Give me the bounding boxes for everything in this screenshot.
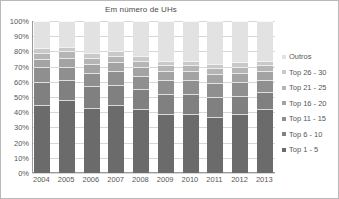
y-tick-label: 40% xyxy=(1,108,29,117)
bar-segment[interactable] xyxy=(133,76,149,90)
legend-item[interactable]: Outros xyxy=(282,49,338,65)
legend-swatch-icon xyxy=(282,148,286,152)
y-tick-label: 90% xyxy=(1,32,29,41)
bar-column[interactable] xyxy=(34,21,50,173)
legend-item-label: Top 26 - 30 xyxy=(289,68,327,77)
y-axis: 0%10%20%30%40%50%60%70%80%90%100% xyxy=(1,21,29,173)
y-tick-label: 80% xyxy=(1,47,29,56)
bar-segment[interactable] xyxy=(183,114,199,173)
y-tick-label: 70% xyxy=(1,62,29,71)
bar-segment[interactable] xyxy=(34,59,50,67)
bar-column[interactable] xyxy=(207,21,223,173)
bar-segment[interactable] xyxy=(108,71,124,85)
bar-segment[interactable] xyxy=(108,85,124,105)
bar-segment[interactable] xyxy=(207,21,223,64)
bar-column[interactable] xyxy=(84,21,100,173)
bar-stack xyxy=(34,21,50,173)
bar-segment[interactable] xyxy=(257,71,273,80)
legend-item-label: Top 21 - 25 xyxy=(289,83,327,92)
x-tick-label: 2012 xyxy=(231,175,247,184)
legend-item[interactable]: Top 1 - 5 xyxy=(282,142,338,158)
legend-item-label: Top 11 - 15 xyxy=(289,114,326,123)
bar-segment[interactable] xyxy=(158,80,174,94)
bar-segment[interactable] xyxy=(34,67,50,82)
bar-segment[interactable] xyxy=(59,100,75,173)
legend-swatch-icon xyxy=(282,101,286,105)
bar-segment[interactable] xyxy=(84,21,100,53)
bar-column[interactable] xyxy=(183,21,199,173)
bar-segment[interactable] xyxy=(232,82,248,96)
legend-item[interactable]: Top 26 - 30 xyxy=(282,65,338,81)
bar-segment[interactable] xyxy=(183,80,199,94)
bar-segment[interactable] xyxy=(34,82,50,105)
bar-segment[interactable] xyxy=(158,71,174,80)
bar-segment[interactable] xyxy=(207,117,223,173)
bar-segment[interactable] xyxy=(59,21,75,47)
bar-segment[interactable] xyxy=(158,114,174,173)
y-tick-label: 50% xyxy=(1,93,29,102)
bar-segment[interactable] xyxy=(108,105,124,173)
bar-segment[interactable] xyxy=(232,96,248,114)
bar-segment[interactable] xyxy=(84,73,100,87)
chart-figure: Em número de UHs 0%10%20%30%40%50%60%70%… xyxy=(0,0,339,199)
bar-segment[interactable] xyxy=(34,21,50,48)
bar-segment[interactable] xyxy=(59,58,75,67)
bar-segment[interactable] xyxy=(257,80,273,92)
bar-segment[interactable] xyxy=(257,109,273,173)
bar-segment[interactable] xyxy=(207,74,223,83)
bar-stack xyxy=(84,21,100,173)
bar-column[interactable] xyxy=(158,21,174,173)
plot-area xyxy=(32,21,275,173)
bar-segment[interactable] xyxy=(59,67,75,81)
bar-column[interactable] xyxy=(232,21,248,173)
bar-segment[interactable] xyxy=(183,71,199,80)
legend-swatch-icon xyxy=(282,132,286,136)
bar-stack xyxy=(183,21,199,173)
legend-item[interactable]: Top 6 - 10 xyxy=(282,127,338,143)
bar-segment[interactable] xyxy=(133,109,149,173)
bar-segment[interactable] xyxy=(207,97,223,117)
bar-segment[interactable] xyxy=(84,64,100,73)
bar-segment[interactable] xyxy=(133,89,149,109)
bar-segment[interactable] xyxy=(257,92,273,109)
bar-segment[interactable] xyxy=(84,108,100,173)
legend-item[interactable]: Top 11 - 15 xyxy=(282,111,338,127)
legend-item[interactable]: Top 21 - 25 xyxy=(282,80,338,96)
bar-segment[interactable] xyxy=(108,21,124,51)
legend-item[interactable]: Top 16 - 20 xyxy=(282,96,338,112)
bar-segment[interactable] xyxy=(133,21,149,56)
legend-item-label: Outros xyxy=(289,52,312,61)
bar-column[interactable] xyxy=(59,21,75,173)
bar-stack xyxy=(133,21,149,173)
x-tick-label: 2009 xyxy=(157,175,173,184)
bar-segment[interactable] xyxy=(183,94,199,114)
bar-segment[interactable] xyxy=(133,67,149,76)
bar-segment[interactable] xyxy=(108,62,124,71)
x-tick-label: 2005 xyxy=(58,175,74,184)
legend-swatch-icon xyxy=(282,117,286,121)
bar-column[interactable] xyxy=(108,21,124,173)
bar-column[interactable] xyxy=(133,21,149,173)
y-tick-label: 60% xyxy=(1,77,29,86)
bar-segment[interactable] xyxy=(59,80,75,100)
bar-segment[interactable] xyxy=(207,83,223,97)
y-tick-label: 0% xyxy=(1,169,29,178)
bar-segment[interactable] xyxy=(232,114,248,173)
bar-segment[interactable] xyxy=(232,73,248,82)
y-tick-label: 100% xyxy=(1,17,29,26)
y-tick-label: 10% xyxy=(1,153,29,162)
bar-segment[interactable] xyxy=(257,21,273,61)
x-tick-label: 2007 xyxy=(107,175,123,184)
bar-segment[interactable] xyxy=(183,21,199,61)
bar-segment[interactable] xyxy=(158,21,174,61)
bar-segment[interactable] xyxy=(34,105,50,173)
chart-legend: OutrosTop 26 - 30Top 21 - 25Top 16 - 20T… xyxy=(282,49,338,158)
bar-column[interactable] xyxy=(257,21,273,173)
bar-segment[interactable] xyxy=(158,94,174,114)
bar-series-group xyxy=(32,21,275,173)
bar-segment[interactable] xyxy=(232,21,248,62)
bar-segment[interactable] xyxy=(84,86,100,107)
x-tick-label: 2006 xyxy=(83,175,99,184)
bar-stack xyxy=(59,21,75,173)
x-axis: 2004200520062007200820092010201120122013 xyxy=(32,175,275,184)
